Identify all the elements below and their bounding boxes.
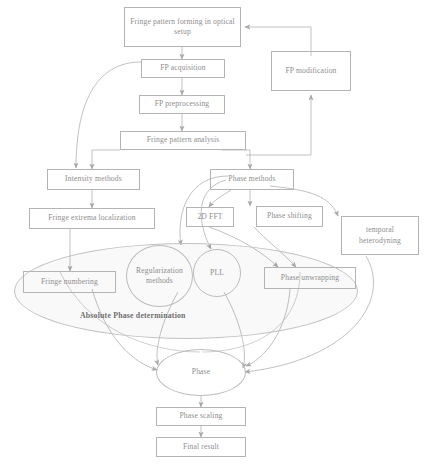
node-regularization-methods[interactable]: Regularization methods [126,245,193,307]
absolute-phase-determination-label: Absolute Phase determination [80,311,186,320]
node-fringe-pattern-analysis[interactable]: Fringe pattern analysis [120,131,246,150]
node-label: Phase unwrapping [281,273,339,283]
node-label: Intensity methods [65,174,122,184]
node-fp-preprocessing[interactable]: FP preprocessing [139,95,225,114]
node-fringe-extrema-localization[interactable]: Fringe extrema localization [29,208,155,229]
node-label: temporal heterodyning [344,225,416,246]
node-fringe-pattern-forming[interactable]: Fringe pattern forming in optical setup [124,7,241,47]
node-label: Phase scaling [179,411,222,421]
node-label: Fringe pattern analysis [147,135,220,145]
node-phase[interactable]: Phase [156,349,246,396]
node-label: FP modification [285,66,336,76]
node-label: PLL [210,268,224,278]
node-label: Phase shifting [267,211,312,221]
node-fp-modification[interactable]: FP modification [271,51,351,91]
node-label: 2D FFT [197,212,222,222]
node-label: Fringe extrema localization [48,213,136,223]
node-intensity-methods[interactable]: Intensity methods [47,169,140,190]
node-label: Phase methods [228,174,275,184]
wire-acquisition-to-intensity-curve [76,62,141,168]
node-phase-methods[interactable]: Phase methods [210,169,294,190]
node-phase-scaling[interactable]: Phase scaling [156,407,246,426]
node-label: Fringe numbering [41,277,98,287]
node-label: Final result [183,442,219,452]
node-phase-unwrapping[interactable]: Phase unwrapping [264,267,356,289]
node-pll[interactable]: PLL [193,249,241,297]
node-label: FP preprocessing [155,99,210,109]
node-fringe-numbering[interactable]: Fringe numbering [23,271,116,293]
wire-phase-methods-to-fft [209,190,231,207]
node-label: Regularization methods [129,266,190,287]
node-fp-acquisition[interactable]: FP acquisition [141,59,225,78]
node-label: Phase [192,367,210,377]
flowchart-canvas: Fringe pattern forming in optical setup … [0,0,427,467]
node-temporal-heterodyning[interactable]: temporal heterodyning [341,216,419,255]
node-label: FP acquisition [160,63,206,73]
node-phase-shifting[interactable]: Phase shifting [256,206,323,227]
wire-analysis-to-intensity [92,150,120,169]
wire-analysis-to-modification [246,95,311,155]
node-2d-fft[interactable]: 2D FFT [186,207,234,227]
node-final-result[interactable]: Final result [156,437,246,457]
wire-analysis-to-phase-methods [222,150,250,169]
node-label: Fringe pattern forming in optical setup [127,17,238,38]
